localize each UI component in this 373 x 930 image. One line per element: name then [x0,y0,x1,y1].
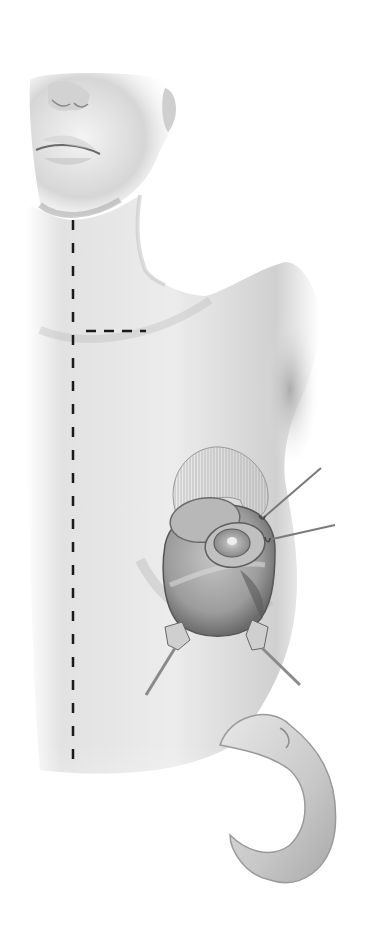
surgical-illustration [0,0,373,930]
illustration-canvas [0,0,373,930]
